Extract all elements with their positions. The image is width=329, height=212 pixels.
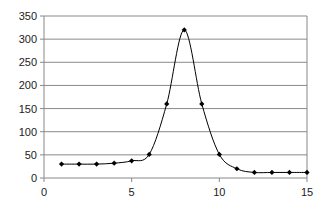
data-point-marker xyxy=(164,101,169,106)
y-tick-label: 150 xyxy=(19,103,37,115)
data-point-marker xyxy=(76,162,81,167)
line-chart: 050100150200250300350 051015 xyxy=(0,0,329,212)
y-tick-label: 350 xyxy=(19,10,37,22)
y-tick-label: 200 xyxy=(19,79,37,91)
x-tick-label: 15 xyxy=(301,186,313,198)
data-point-marker xyxy=(234,166,239,171)
x-tick-label: 10 xyxy=(213,186,225,198)
data-point-marker xyxy=(199,101,204,106)
y-tick-label: 300 xyxy=(19,33,37,45)
data-point-marker xyxy=(269,170,274,175)
data-point-marker xyxy=(129,158,134,163)
data-point-marker xyxy=(252,170,257,175)
y-tick-label: 0 xyxy=(31,172,37,184)
y-tick-label: 50 xyxy=(25,149,37,161)
axes xyxy=(40,16,307,182)
data-point-markers xyxy=(59,27,310,175)
data-point-marker xyxy=(94,162,99,167)
data-point-marker xyxy=(59,162,64,167)
data-point-marker xyxy=(287,170,292,175)
y-tick-label: 250 xyxy=(19,56,37,68)
data-point-marker xyxy=(304,170,309,175)
y-tick-label: 100 xyxy=(19,126,37,138)
x-tick-label: 5 xyxy=(129,186,135,198)
y-axis-tick-labels: 050100150200250300350 xyxy=(19,10,37,184)
data-point-marker xyxy=(112,161,117,166)
x-tick-label: 0 xyxy=(41,186,47,198)
horizontal-gridlines xyxy=(44,16,307,155)
x-axis-tick-labels: 051015 xyxy=(41,186,313,198)
data-series-line xyxy=(62,30,307,173)
data-point-marker xyxy=(217,152,222,157)
